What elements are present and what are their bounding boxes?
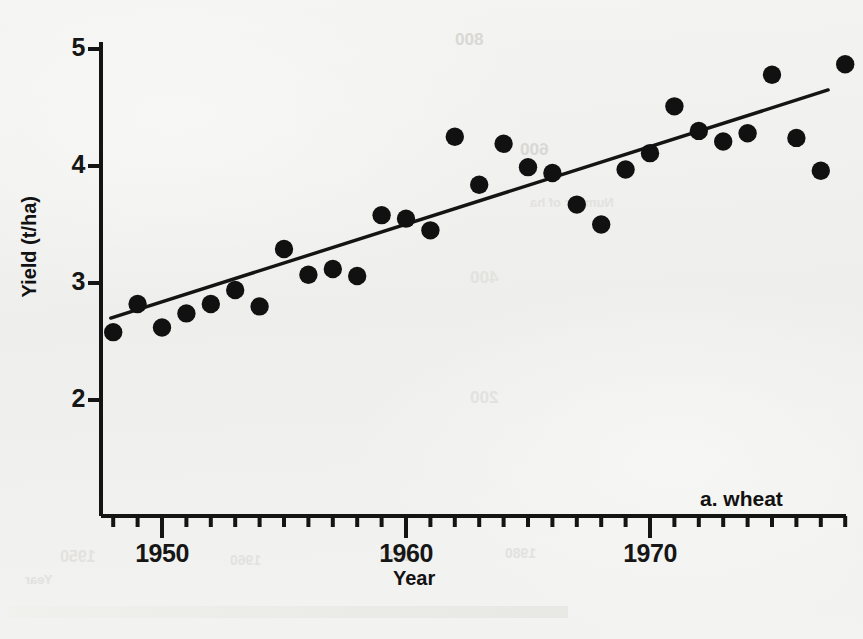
data-point (690, 122, 708, 140)
data-point-series (104, 55, 854, 341)
regression-trendline (111, 90, 828, 318)
data-point (275, 240, 293, 258)
data-point (202, 295, 220, 313)
data-point (714, 132, 732, 150)
data-point (738, 124, 756, 142)
data-point (153, 318, 171, 336)
data-point (421, 221, 439, 239)
x-axis-title: Year (393, 567, 435, 590)
data-point (104, 323, 122, 341)
data-point (616, 160, 634, 178)
data-point (787, 129, 805, 147)
data-point (348, 267, 366, 285)
panel-label: a. wheat (700, 487, 783, 511)
data-point (494, 135, 512, 153)
data-point (299, 266, 317, 284)
data-point (177, 304, 195, 322)
data-point (812, 161, 830, 179)
data-point (250, 297, 268, 315)
data-point (543, 164, 561, 182)
data-point (665, 97, 683, 115)
y-axis-title: Yield (t/ha) (18, 196, 41, 297)
data-point (836, 55, 854, 73)
y-axis-tick-label: 4 (57, 150, 85, 179)
data-point (324, 260, 342, 278)
y-axis-tick-label: 2 (57, 384, 85, 413)
x-axis-tick-label: 1970 (615, 539, 685, 568)
data-point (128, 295, 146, 313)
data-point (446, 128, 464, 146)
data-point (641, 144, 659, 162)
data-point (592, 215, 610, 233)
x-axis-tick-label: 1950 (127, 539, 197, 568)
data-point (470, 176, 488, 194)
y-axis-tick-label: 3 (57, 267, 85, 296)
data-point (226, 281, 244, 299)
data-point (519, 158, 537, 176)
data-point (397, 209, 415, 227)
data-point (372, 206, 390, 224)
data-point (568, 195, 586, 213)
x-axis-tick-label: 1960 (371, 539, 441, 568)
y-axis-tick-label: 5 (57, 33, 85, 62)
data-point (763, 66, 781, 84)
